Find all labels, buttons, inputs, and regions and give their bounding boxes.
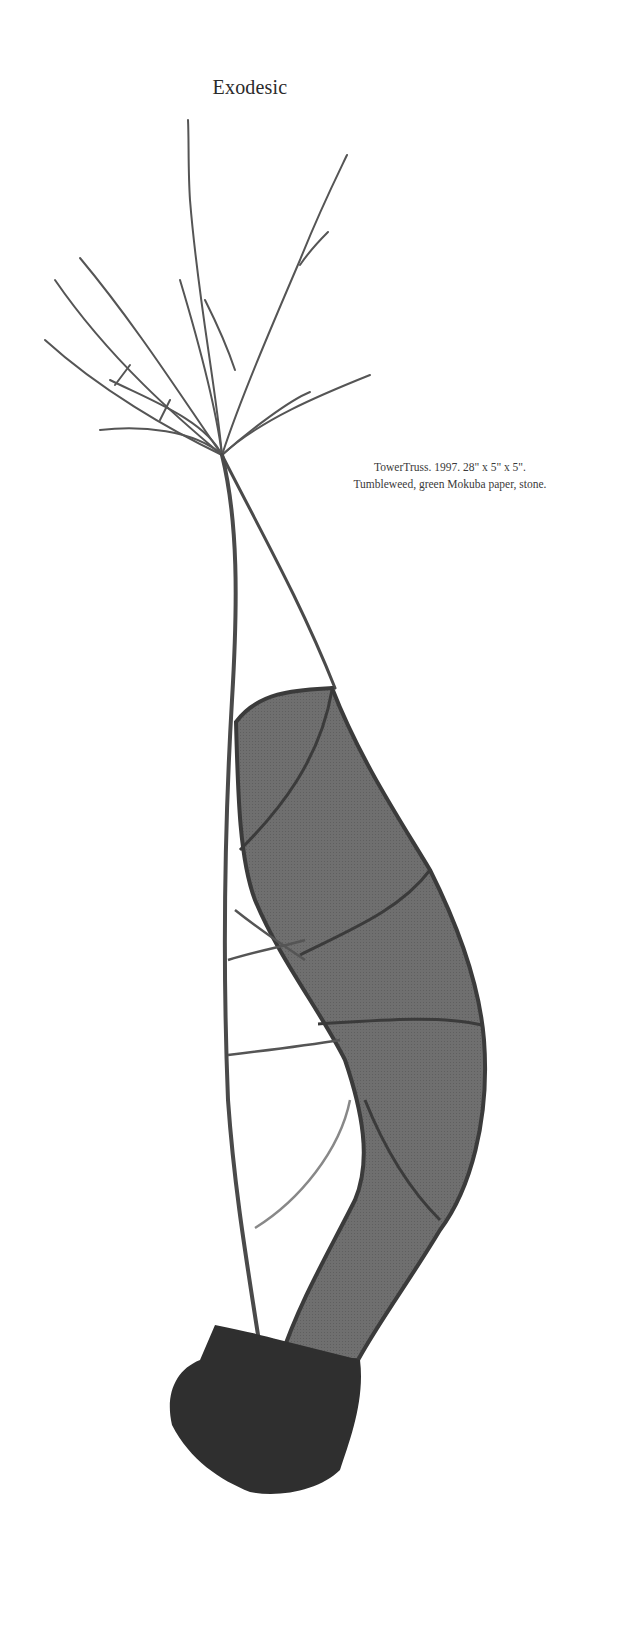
paper-band bbox=[236, 688, 485, 1360]
sculpture-image bbox=[0, 0, 642, 1646]
tumbleweed-branches bbox=[45, 120, 370, 455]
